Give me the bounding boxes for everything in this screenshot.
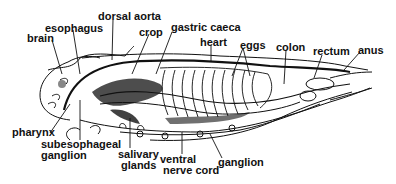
label-heart: heart xyxy=(200,37,227,48)
label-eggs: eggs xyxy=(240,40,266,51)
label-dorsal-aorta: dorsal aorta xyxy=(98,11,161,22)
label-crop: crop xyxy=(139,27,163,38)
label-salivary-glands: glands xyxy=(121,160,156,171)
label-subesophageal-ganglion: ganglion xyxy=(41,150,87,161)
label-anus: anus xyxy=(358,45,384,56)
label-pharynx: pharynx xyxy=(12,127,55,138)
label-ganglion: ganglion xyxy=(218,157,264,168)
label-brain: brain xyxy=(27,33,54,44)
label-esophagus: esophagus xyxy=(45,23,103,34)
label-rectum: rectum xyxy=(313,46,350,57)
insect-anatomy-diagram: brain esophagus dorsal aorta crop gastri… xyxy=(0,0,396,184)
label-gastric-caeca: gastric caeca xyxy=(171,22,241,33)
label-ventral-nerve-cord: nerve cord xyxy=(163,165,219,176)
label-colon: colon xyxy=(276,42,305,53)
